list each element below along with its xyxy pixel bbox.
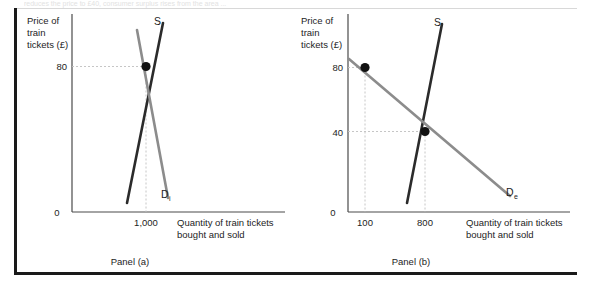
panel-b-equilibrium-dot (420, 127, 429, 136)
panel-a-ylabel-line-2: train (27, 27, 45, 38)
panel-b-ylabel-line-3: tickets (£) (301, 39, 342, 50)
panel-b-origin-label: 0 (330, 207, 335, 218)
panel-b-ylabel-line-1: Price of (301, 15, 334, 26)
panel-b-caption: Panel (b) (392, 256, 431, 267)
panel-a-caption: Panel (a) (111, 256, 150, 267)
panel-b-ytick-80: 80 (332, 62, 343, 73)
panel-b-demand-label-subscript: e (514, 193, 518, 200)
panel-a-supply-curve (127, 23, 163, 203)
panel-a-demand-curve (137, 30, 168, 198)
panel-b-supply-label: S (434, 16, 441, 28)
panel-a-equilibrium-dot (141, 62, 150, 71)
panel-b-demand-label: D (506, 186, 514, 198)
panel-a-supply-label: S (154, 15, 161, 27)
panel-a-demand-label-subscript: i (169, 195, 171, 202)
panel-b-xlabel-line-1: Quantity of train tickets (466, 217, 563, 228)
panel-a: Price of train tickets (£) 0 80 S D i (27, 14, 285, 267)
panel-b-xtick-100: 100 (357, 217, 373, 228)
panel-a-xtick-1000: 1,000 (134, 217, 158, 228)
panel-b-point-price-80 (360, 63, 369, 72)
panel-b-xlabel-line-2: bought and sold (466, 229, 534, 240)
panel-a-xlabel-line-1: Quantity of train tickets (177, 217, 274, 228)
panel-a-ylabel-line-1: Price of (27, 15, 60, 26)
charts-svg: Price of train tickets (£) 0 80 S D i (0, 0, 590, 288)
panel-b-demand-curve (349, 59, 510, 196)
panel-a-ytick-80: 80 (56, 61, 67, 72)
panel-a-origin-label: 0 (54, 207, 59, 218)
panel-b-ylabel-line-2: train (301, 27, 319, 38)
panel-b-ytick-40: 40 (332, 127, 343, 138)
panel-a-demand-label: D (161, 188, 169, 200)
figure-root: reduces the price to £40, consumer surpl… (0, 0, 590, 288)
panel-b-xtick-800: 800 (417, 217, 433, 228)
panel-a-xlabel-line-2: bought and sold (177, 229, 245, 240)
panel-b: Price of train tickets (£) 0 80 40 S D (301, 14, 570, 267)
panel-a-ylabel-line-3: tickets (£) (27, 39, 68, 50)
